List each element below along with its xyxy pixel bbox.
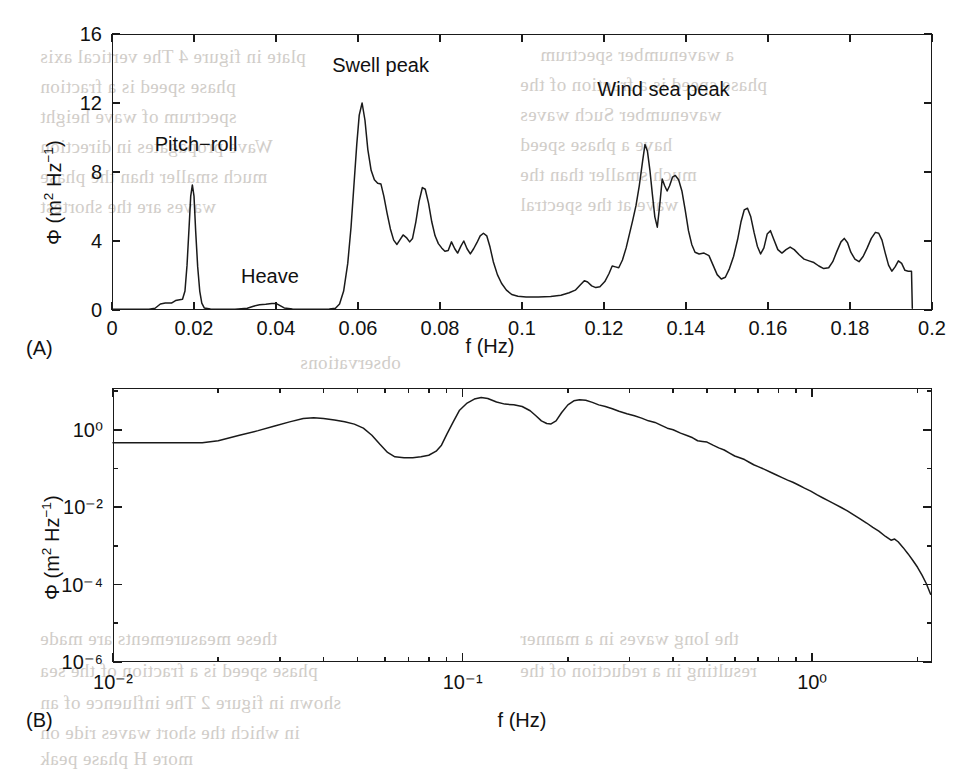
- panel-a-annotation: Wind sea peak: [597, 79, 729, 99]
- panel-a-annotation: Pitch−roll: [155, 134, 238, 154]
- panel-b: Φ (m2 Hz−1) f (Hz) (B) 10⁻²10⁻¹10⁰10⁻⁶10…: [0, 370, 968, 760]
- panel-b-x-tick-label: 10⁰: [797, 672, 827, 692]
- panel-b-x-tick-label: 10⁻¹: [443, 672, 483, 692]
- panel-a-annotation: Heave: [241, 266, 299, 286]
- panel-b-y-tick-label: 10⁻⁴: [41, 575, 103, 595]
- panel-a-annotations: Pitch−rollHeaveSwell peakWind sea peak: [0, 0, 968, 370]
- panel-b-y-tick-label: 10⁻²: [41, 497, 103, 517]
- panel-a: Φ (m2 Hz−1) f (Hz) (A) 00.020.040.060.08…: [0, 0, 968, 370]
- panel-b-spectrum-curve: [113, 388, 932, 662]
- panel-a-annotation: Swell peak: [332, 55, 429, 75]
- panel-b-y-tick-label: 10⁰: [41, 420, 103, 440]
- panel-b-y-tick-label: 10⁻⁶: [41, 652, 103, 672]
- panel-b-x-tick-label: 10⁻²: [93, 672, 133, 692]
